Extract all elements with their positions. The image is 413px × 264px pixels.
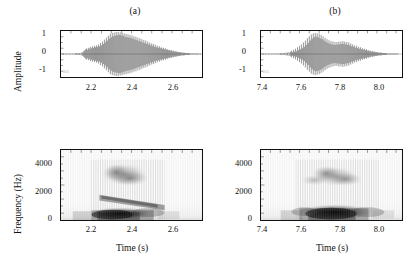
spectrogram-a-svg	[61, 150, 202, 220]
waveform-a-ytick-neg1: -1	[22, 64, 46, 74]
spectrogram-b-xtick-7-4: 7.4	[249, 224, 275, 234]
waveform-a-ytick-0: 0	[26, 46, 46, 56]
waveform-a-top-ticks	[71, 31, 192, 33]
waveform-a-xtick-2-6: 2.6	[160, 82, 186, 92]
waveform-plot-b	[260, 30, 403, 78]
waveform-b-ytick-neg1: -1	[222, 64, 246, 74]
waveform-a-ytick-1: 1	[26, 28, 46, 38]
waveform-a-xtick-2-2: 2.2	[78, 82, 104, 92]
waveform-b-xtick-7-4: 7.4	[249, 82, 275, 92]
spectrogram-a-ytick-4000: 4000	[20, 158, 52, 168]
waveform-plot-a	[60, 30, 203, 78]
panel-caption-a: (a)	[100, 6, 170, 16]
waveform-a-svg	[61, 31, 202, 77]
spectrogram-b-xlabel: Time (s)	[296, 243, 368, 253]
waveform-b-ytick-0: 0	[226, 46, 246, 56]
figure-container: (a) (b) Amplitude 1 0 -1 305 2.2 2.4 2.6…	[0, 0, 413, 264]
spectrogram-a-ylabel: Frequency (Hz)	[13, 174, 23, 234]
spectrogram-plot-b	[260, 149, 403, 221]
waveform-b-xtick-7-8: 7.8	[327, 82, 353, 92]
waveform-b-ytick-1: 1	[226, 28, 246, 38]
waveform-b-top-ticks	[270, 31, 396, 33]
spectrogram-b-xtick-7-6: 7.6	[288, 224, 314, 234]
waveform-b-xtick-8-0: 8.0	[366, 82, 392, 92]
spectrogram-plot-a	[60, 149, 203, 221]
spectrogram-a-ytick-0: 0	[20, 213, 52, 223]
waveform-b-corner-tag: 201	[263, 70, 269, 74]
spectrogram-b-svg	[261, 150, 402, 220]
spectrogram-b-ytick-2000: 2000	[220, 186, 252, 196]
waveform-a-xtick-2-4: 2.4	[119, 82, 145, 92]
spectrogram-b-ytick-0: 0	[220, 213, 252, 223]
spectrogram-a-xlabel: Time (s)	[96, 243, 168, 253]
spectrogram-a-ytick-2000: 2000	[20, 186, 52, 196]
spectrogram-b-xtick-7-8: 7.8	[327, 224, 353, 234]
spectrogram-b-xtick-8-0: 8.0	[366, 224, 392, 234]
panel-caption-b: (b)	[300, 6, 370, 16]
waveform-a-corner-tag: 305	[63, 70, 69, 74]
spectrogram-b-ytick-4000: 4000	[220, 158, 252, 168]
spectrogram-a-xtick-2-4: 2.4	[119, 224, 145, 234]
waveform-b-xtick-7-6: 7.6	[288, 82, 314, 92]
spectrogram-a-xtick-2-6: 2.6	[160, 224, 186, 234]
spectrogram-a-xtick-2-2: 2.2	[78, 224, 104, 234]
waveform-b-svg	[261, 31, 402, 77]
